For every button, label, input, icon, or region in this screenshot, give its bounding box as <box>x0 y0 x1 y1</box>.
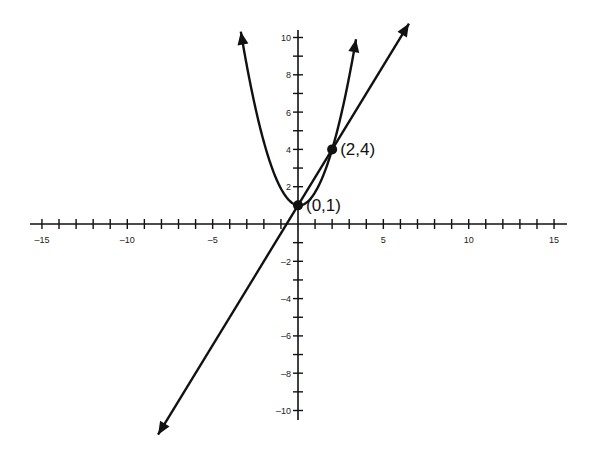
x-tick-label: 15 <box>549 235 559 245</box>
y-tick-label: –6 <box>281 331 291 341</box>
y-tick-label: 2 <box>286 182 291 192</box>
y-tick-label: –2 <box>281 257 291 267</box>
point-label: (2,4) <box>340 140 375 159</box>
labeled-points: (0,1)(2,4) <box>293 140 375 215</box>
line-arrow-up-icon <box>397 24 408 38</box>
parabola-arrow-right-icon <box>348 39 359 53</box>
x-tick-label: 5 <box>381 235 386 245</box>
x-tick-label: 10 <box>464 235 474 245</box>
y-tick-label: –10 <box>276 406 291 416</box>
y-tick-label: –4 <box>281 294 291 304</box>
line-arrow-down-icon <box>158 421 169 435</box>
point-marker <box>327 144 337 154</box>
x-tick-label: –5 <box>208 235 218 245</box>
y-tick-label: –8 <box>281 369 291 379</box>
point-label: (0,1) <box>306 196 341 215</box>
y-tick-label: 6 <box>286 108 291 118</box>
x-tick-label: –15 <box>34 235 49 245</box>
x-tick-label: –10 <box>120 235 135 245</box>
y-tick-label: 8 <box>286 70 291 80</box>
y-tick-label: 4 <box>286 145 291 155</box>
y-tick-label: 10 <box>281 33 291 43</box>
point-marker <box>293 200 303 210</box>
coordinate-plane-chart: –15–10–551015108642–2–4–6–8–10 (0,1)(2,4… <box>0 0 591 451</box>
parabola-arrow-left-icon <box>238 32 249 46</box>
